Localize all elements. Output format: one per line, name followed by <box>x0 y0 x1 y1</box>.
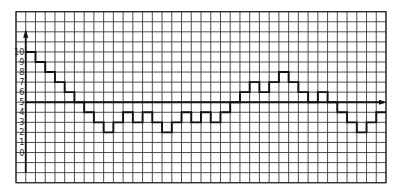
y-axis-arrow-icon <box>23 30 28 38</box>
y-tick-label: 6 <box>19 88 24 97</box>
axes <box>17 30 387 173</box>
y-tick-label: 4 <box>19 108 24 117</box>
y-tick-label: 3 <box>19 118 24 127</box>
x-axis-arrow-icon <box>379 100 387 105</box>
step-chart: 109876543210 <box>0 0 397 193</box>
y-tick-label: 9 <box>19 58 24 67</box>
y-tick-label: 5 <box>19 98 24 107</box>
y-tick-label: 10 <box>14 48 24 57</box>
y-tick-label: 0 <box>19 149 24 158</box>
y-tick-label: 8 <box>19 68 24 77</box>
grid <box>16 12 386 183</box>
chart-container: 109876543210 <box>0 0 397 193</box>
y-tick-label: 2 <box>19 128 24 137</box>
y-tick-label: 1 <box>19 138 24 147</box>
y-tick-label: 7 <box>19 78 24 87</box>
